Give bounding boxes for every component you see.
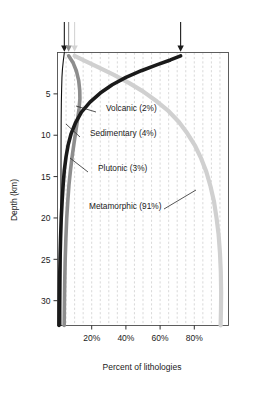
lithology-depth-figure: 20%40%60%80% 51015202530 Volcanic (2%)Se… [0,0,256,395]
curve-label: Volcanic (2%) [106,103,157,113]
y-axis-title: Depth (km) [9,179,19,221]
y-tick-label: 30 [41,296,51,306]
y-tick-label: 15 [41,172,51,182]
x-tick-label: 20% [83,333,100,343]
curve-label: Metamorphic (91%) [89,201,162,211]
x-tick-label: 80% [186,333,203,343]
x-axis-title: Percent of lithologies [103,362,182,372]
y-tick-label: 25 [41,255,51,265]
y-tick-label: 5 [46,89,51,99]
y-tick-label: 10 [41,130,51,140]
y-tick-label: 20 [41,213,51,223]
curve-label: Sedimentary (4%) [90,128,157,138]
lithology-depth-chart: 20%40%60%80% 51015202530 Volcanic (2%)Se… [0,0,256,395]
curve-label: Plutonic (3%) [98,163,148,173]
x-tick-label: 60% [152,333,169,343]
x-tick-label: 40% [117,333,134,343]
